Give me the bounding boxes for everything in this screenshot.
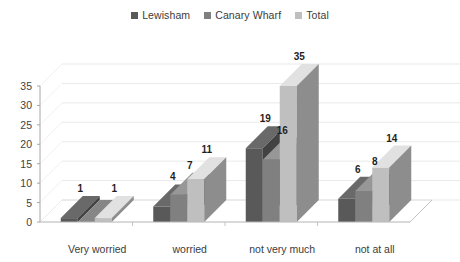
legend-label-total: Total: [306, 9, 329, 21]
category-axis-label: worried: [140, 243, 240, 255]
value-axis-tick-label: 35: [6, 81, 32, 91]
data-label: 35: [288, 51, 310, 62]
data-label: 14: [381, 133, 403, 144]
data-label: 11: [196, 144, 218, 155]
legend-label-canary-wharf: Canary Wharf: [215, 9, 281, 21]
value-axis-tick-label: 15: [6, 159, 32, 169]
data-label: 16: [271, 125, 293, 136]
legend-entry-lewisham: Lewisham: [131, 9, 190, 21]
bar-series-group: [61, 64, 412, 222]
category-axis-label: Very worried: [47, 243, 147, 255]
value-axis-tick-label: 25: [6, 120, 32, 130]
data-label: 7: [179, 160, 201, 171]
data-label: 8: [364, 156, 386, 167]
value-axis-tick-label: 10: [6, 178, 32, 188]
data-label: 1: [69, 183, 91, 194]
legend-entry-canary-wharf: Canary Wharf: [204, 9, 281, 21]
category-axis-label: not at all: [325, 243, 425, 255]
data-label: 4: [162, 171, 184, 182]
legend-swatch-lewisham: [131, 12, 138, 19]
value-axis-tick-label: 30: [6, 100, 32, 110]
legend-entry-total: Total: [295, 9, 329, 21]
value-axis-tick-label: 0: [6, 217, 32, 227]
legend-swatch-total: [295, 12, 302, 19]
data-label: 1: [103, 183, 125, 194]
legend-swatch-canary-wharf: [204, 12, 211, 19]
value-axis-tick-label: 20: [6, 139, 32, 149]
value-axis-tick-label: 5: [6, 198, 32, 208]
category-axis-label: not very much: [232, 243, 332, 255]
legend-label-lewisham: Lewisham: [142, 9, 190, 21]
chart-legend: Lewisham Canary Wharf Total: [0, 9, 460, 21]
value-axis-line: [37, 86, 40, 222]
bar-chart: Lewisham Canary Wharf Total 051015202530…: [0, 0, 460, 262]
data-label: 19: [254, 113, 276, 124]
